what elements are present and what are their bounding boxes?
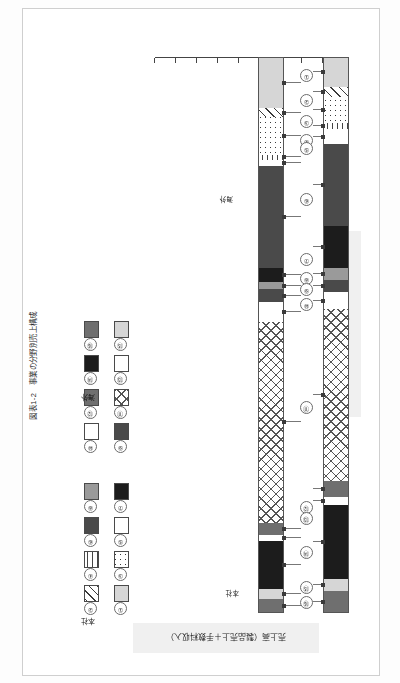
bar-segment <box>258 599 284 613</box>
legend-swatch <box>84 551 99 568</box>
bar-column-employees <box>323 57 349 613</box>
callout-leader <box>284 421 301 422</box>
bar-segment <box>258 108 284 117</box>
legend-number: ③ <box>114 568 127 581</box>
callout-leader <box>284 295 301 296</box>
callout-tip <box>282 81 286 85</box>
callout-label-headoffice: 本社 <box>225 589 239 599</box>
callout-tip <box>282 536 286 540</box>
bar-column-sales <box>258 57 284 613</box>
legend-swatch <box>114 585 129 602</box>
callout-leader <box>284 311 301 312</box>
callout-leader <box>284 564 301 565</box>
sales-axis-label: 売上高（製品売上＋手数料収入） <box>133 623 319 653</box>
callout-leader <box>284 285 301 286</box>
legend-swatch <box>114 355 129 372</box>
bar-segment <box>323 497 349 505</box>
bar-segment <box>323 579 349 591</box>
callout-tip <box>321 583 325 587</box>
legend-number: ⑩ <box>84 440 97 453</box>
bar-segment <box>258 322 284 523</box>
callout-tip <box>321 600 325 604</box>
callout-tip <box>321 90 325 94</box>
bar-segment <box>258 302 284 322</box>
callout-tip <box>282 284 286 288</box>
callout-leader <box>284 605 301 606</box>
callout-tip <box>282 592 286 596</box>
callout-number: ① <box>300 69 313 82</box>
legend-swatch <box>114 389 129 406</box>
bar-segment <box>258 166 284 268</box>
callout-tip <box>282 155 286 159</box>
legend-swatch <box>114 517 129 534</box>
legend-number: ④ <box>84 568 97 581</box>
bar-segment <box>323 505 349 578</box>
legend-number: ⑪ <box>114 406 127 419</box>
legend-number: ⑫ <box>84 406 97 419</box>
bar-segment <box>323 97 349 123</box>
axis-tick <box>217 58 218 63</box>
callout-number: ⑭ <box>300 546 313 559</box>
callout-tip <box>321 135 325 139</box>
callout-number: ③ <box>300 115 313 128</box>
callout-tip <box>282 527 286 531</box>
callout-tip <box>321 499 325 503</box>
bar-segment <box>323 87 349 97</box>
callout-tip <box>321 540 325 544</box>
legend-number: ⑭ <box>84 372 97 385</box>
bar-segment <box>323 292 349 310</box>
callout-number: ⑩ <box>300 298 313 311</box>
bar-segment <box>323 309 349 480</box>
legend-header-headoffice: 本社 <box>81 617 95 627</box>
bar-segment <box>258 117 284 155</box>
bar-segment <box>323 591 349 613</box>
bar-segment <box>258 535 284 542</box>
bar-segment <box>258 268 284 281</box>
callout-tip <box>321 284 325 288</box>
callout-tip <box>321 299 325 303</box>
callout-tip <box>321 124 325 128</box>
figure-plot-area: 売上高（製品売上＋手数料収入） 従業員数 ①②③④⑤⑥⑦⑧⑨⑩⑪⑫⑬⑭⑮⑯ 海外… <box>23 9 379 675</box>
callout-tip <box>321 245 325 249</box>
callout-tip <box>282 310 286 314</box>
legend-number: ⑥ <box>84 534 97 547</box>
callout-leader <box>284 135 301 136</box>
legend-number: ⑤ <box>114 534 127 547</box>
legend-swatch <box>114 423 129 440</box>
legend-swatch <box>84 423 99 440</box>
axis-tick <box>301 58 302 63</box>
axis-tick <box>238 58 239 63</box>
callout-leader <box>284 112 301 113</box>
bar-segment <box>258 523 284 535</box>
legend-number: ⑧ <box>84 500 97 513</box>
bar-segment <box>258 289 284 301</box>
axis-tick <box>196 58 197 63</box>
legend-number: ② <box>84 602 97 615</box>
legend-number: ⑯ <box>84 338 97 351</box>
bar-segment <box>323 268 349 280</box>
bar-segment <box>258 541 284 589</box>
callout-number: ⑪ <box>300 401 313 414</box>
bar-segment <box>323 226 349 268</box>
callout-tip <box>321 183 325 187</box>
legend-swatch <box>84 517 99 534</box>
figure-frame: 図表1-2 事業の分野別売上構成 売上高（製品売上＋手数料収入） 従業員数 ①②… <box>22 8 380 676</box>
callout-number: ⑤ <box>300 142 313 155</box>
legend-swatch <box>114 551 129 568</box>
axis-tick <box>175 58 176 63</box>
callout-number: ⑨ <box>300 283 313 296</box>
callout-tip <box>321 487 325 491</box>
callout-number: ⑮ <box>300 581 313 594</box>
bar-segment <box>323 57 349 87</box>
callout-leader <box>284 537 301 538</box>
bar-segment <box>323 281 349 292</box>
callout-tip <box>282 215 286 219</box>
callout-leader <box>284 82 301 83</box>
callout-number: ⑥ <box>300 193 313 206</box>
legend-swatch <box>114 483 129 500</box>
legend-number: ⑮ <box>114 338 127 351</box>
callout-number: ⑯ <box>300 596 313 609</box>
callout-leader <box>284 156 301 157</box>
legend-swatch <box>84 483 99 500</box>
legend-swatch <box>114 321 129 338</box>
